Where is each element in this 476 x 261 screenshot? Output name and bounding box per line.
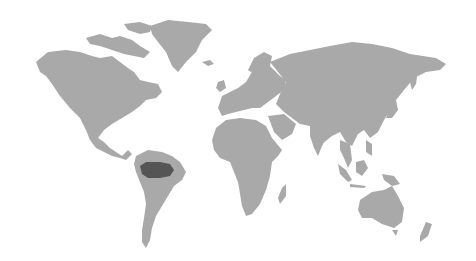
landmasses xyxy=(36,20,446,248)
tasmania xyxy=(392,230,398,236)
java xyxy=(350,184,366,188)
highlighted-region-amazon xyxy=(140,162,174,178)
madagascar xyxy=(278,184,286,204)
greenland xyxy=(150,20,212,72)
new-zealand xyxy=(420,222,432,242)
british-isles xyxy=(216,80,226,92)
africa xyxy=(212,118,282,216)
australia xyxy=(358,186,404,228)
borneo xyxy=(356,160,368,176)
iceland xyxy=(202,60,214,66)
philippines xyxy=(366,140,372,156)
north-america xyxy=(36,50,162,160)
sumatra xyxy=(338,164,352,182)
arabian-peninsula xyxy=(268,114,296,140)
baffin-island xyxy=(124,22,152,34)
world-map xyxy=(0,0,476,261)
arctic-archipelago xyxy=(86,34,150,58)
new-guinea xyxy=(382,174,400,186)
asia xyxy=(270,42,446,146)
